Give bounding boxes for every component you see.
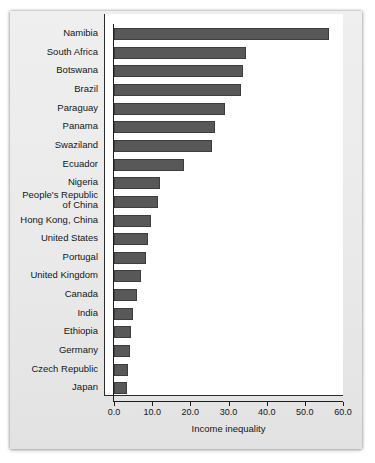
- bar: [114, 252, 146, 264]
- category-label: India: [0, 308, 98, 319]
- bar: [114, 140, 212, 152]
- bar: [114, 364, 128, 376]
- category-label: Namibia: [0, 28, 98, 39]
- bar-row: Panama: [0, 120, 375, 134]
- bar-row: South Africa: [0, 46, 375, 60]
- bar: [114, 196, 158, 208]
- bar: [114, 215, 151, 227]
- bar-row: People's Republic of China: [0, 195, 375, 209]
- bar-row: Germany: [0, 344, 375, 358]
- x-tick-label: 30.0: [212, 407, 246, 417]
- category-label: People's Republic of China: [0, 190, 98, 211]
- x-tick-label: 0.0: [97, 407, 131, 417]
- x-tick: [267, 402, 268, 406]
- category-label: Panama: [0, 121, 98, 132]
- x-axis-title: Income inequality: [113, 423, 344, 434]
- x-tick-label: 50.0: [288, 407, 322, 417]
- category-label: Japan: [0, 382, 98, 393]
- category-label: Nigeria: [0, 177, 98, 188]
- x-tick: [190, 402, 191, 406]
- bar: [114, 28, 329, 40]
- category-label: Botswana: [0, 65, 98, 76]
- bar-row: Ecuador: [0, 158, 375, 172]
- bar-row: United Kingdom: [0, 269, 375, 283]
- x-tick-label: 40.0: [250, 407, 284, 417]
- category-label: Canada: [0, 289, 98, 300]
- bar-row: Ethiopia: [0, 325, 375, 339]
- bar: [114, 308, 133, 320]
- x-tick-label: 60.0: [326, 407, 360, 417]
- chart-page: NamibiaSouth AfricaBotswanaBrazilParagua…: [0, 0, 375, 463]
- bar-row: Japan: [0, 381, 375, 395]
- bar-row: Portugal: [0, 251, 375, 265]
- x-tick: [152, 402, 153, 406]
- bar: [114, 121, 215, 133]
- category-label: Paraguay: [0, 103, 98, 114]
- category-label: Czech Republic: [0, 364, 98, 375]
- category-label: Hong Kong, China: [0, 215, 98, 226]
- bar-row: Canada: [0, 288, 375, 302]
- bar: [114, 84, 241, 96]
- bar: [114, 159, 184, 171]
- category-label: South Africa: [0, 47, 98, 58]
- category-label: Ecuador: [0, 159, 98, 170]
- bar: [114, 103, 225, 115]
- category-label: United Kingdom: [0, 270, 98, 281]
- x-tick: [114, 402, 115, 406]
- bar: [114, 326, 131, 338]
- bar-row: Czech Republic: [0, 363, 375, 377]
- category-label: Ethiopia: [0, 326, 98, 337]
- bar: [114, 47, 246, 59]
- bar-row: Namibia: [0, 27, 375, 41]
- category-label: Swaziland: [0, 140, 98, 151]
- bar-chart: NamibiaSouth AfricaBotswanaBrazilParagua…: [0, 0, 375, 463]
- bar: [114, 177, 160, 189]
- category-label: Brazil: [0, 84, 98, 95]
- bar: [114, 382, 127, 394]
- x-tick: [305, 402, 306, 406]
- bar: [114, 233, 148, 245]
- bar-row: Swaziland: [0, 139, 375, 153]
- bar-row: Brazil: [0, 83, 375, 97]
- x-tick-label: 20.0: [173, 407, 207, 417]
- category-label: Germany: [0, 345, 98, 356]
- bar-row: Paraguay: [0, 102, 375, 116]
- bar: [114, 65, 243, 77]
- x-tick-label: 10.0: [135, 407, 169, 417]
- bar-row: Botswana: [0, 64, 375, 78]
- bar: [114, 345, 130, 357]
- category-label: Portugal: [0, 252, 98, 263]
- category-label: United States: [0, 233, 98, 244]
- bar-row: Hong Kong, China: [0, 214, 375, 228]
- x-tick: [229, 402, 230, 406]
- x-tick: [343, 402, 344, 406]
- bar-row: India: [0, 307, 375, 321]
- bar-row: United States: [0, 232, 375, 246]
- bar: [114, 289, 137, 301]
- bar: [114, 270, 141, 282]
